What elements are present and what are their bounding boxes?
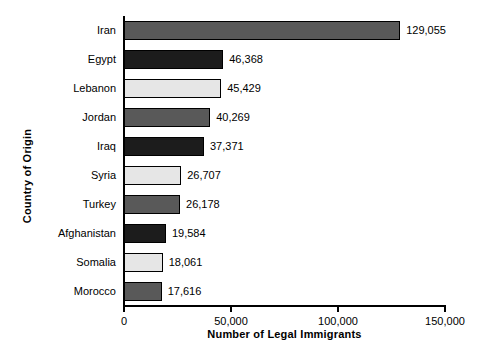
bar-value-label: 19,584 (172, 224, 206, 243)
bar (124, 282, 162, 301)
bar (124, 108, 210, 127)
y-axis-title: Country of Origin (16, 21, 38, 331)
category-label: Afghanistan (58, 224, 116, 243)
bar-value-label: 26,707 (187, 166, 221, 185)
x-axis-title: Number of Legal Immigrants (124, 328, 445, 340)
x-axis-tick-label: 0 (121, 315, 127, 327)
category-label: Iraq (97, 137, 116, 156)
bar (124, 166, 181, 185)
x-axis-tick-label: 50,000 (214, 315, 248, 327)
category-label: Syria (91, 166, 116, 185)
bar-row: Somalia18,061 (124, 248, 445, 277)
bar-row: Afghanistan19,584 (124, 219, 445, 248)
x-axis-tick-label: 100,000 (318, 315, 358, 327)
bar-value-label: 129,055 (406, 21, 446, 40)
bar-row: Turkey26,178 (124, 190, 445, 219)
bar-value-label: 18,061 (169, 253, 203, 272)
x-axis-tick (444, 305, 446, 312)
bar-row: Iraq37,371 (124, 132, 445, 161)
x-axis-tick (230, 305, 232, 312)
x-axis-tick (337, 305, 339, 312)
bar-value-label: 37,371 (210, 137, 244, 156)
bar-chart: Country of Origin Iran129,055Egypt46,368… (0, 0, 481, 356)
bar (124, 21, 400, 40)
category-label: Turkey (83, 195, 116, 214)
bar (124, 195, 180, 214)
bar-row: Egypt46,368 (124, 45, 445, 74)
bar (124, 50, 223, 69)
bar (124, 79, 221, 98)
bar-value-label: 46,368 (229, 50, 263, 69)
category-label: Lebanon (73, 79, 116, 98)
x-axis-tick (123, 305, 125, 312)
bar-value-label: 45,429 (227, 79, 261, 98)
bar-row: Lebanon45,429 (124, 74, 445, 103)
bar-row: Jordan40,269 (124, 103, 445, 132)
bar-value-label: 40,269 (216, 108, 250, 127)
bar-value-label: 26,178 (186, 195, 220, 214)
plot-area: Iran129,055Egypt46,368Lebanon45,429Jorda… (124, 16, 445, 305)
bar-row: Morocco17,616 (124, 277, 445, 306)
category-label: Jordan (82, 108, 116, 127)
bar-row: Iran129,055 (124, 16, 445, 45)
category-label: Morocco (74, 282, 116, 301)
bar (124, 224, 166, 243)
bar (124, 137, 204, 156)
bar-value-label: 17,616 (168, 282, 202, 301)
category-label: Iran (97, 21, 116, 40)
category-label: Somalia (76, 253, 116, 272)
category-label: Egypt (88, 50, 116, 69)
bar (124, 253, 163, 272)
bar-row: Syria26,707 (124, 161, 445, 190)
x-axis-tick-label: 150,000 (425, 315, 465, 327)
